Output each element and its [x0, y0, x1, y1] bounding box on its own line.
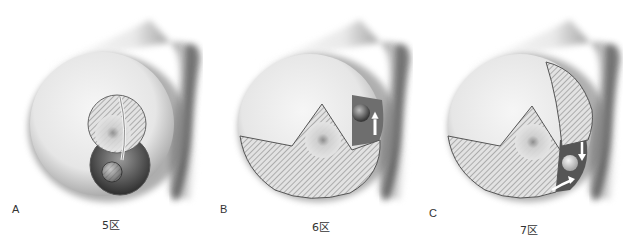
panel-letter-c: C [429, 207, 437, 219]
breast-illustration-zone-6 [210, 0, 422, 244]
zone-label-7: 7区 [520, 221, 538, 237]
zone-label-6: 6区 [312, 218, 330, 234]
breast-illustration-zone-7 [420, 0, 636, 244]
panel-a: A 5区 [0, 0, 212, 244]
panel-letter-a: A [12, 203, 19, 215]
panel-letter-b: B [220, 203, 227, 215]
zone-label-5: 5区 [102, 216, 120, 232]
panel-b: B 6区 [210, 0, 422, 244]
breast-illustration-zone-5 [0, 0, 212, 244]
panel-c: C 7区 [420, 0, 632, 244]
